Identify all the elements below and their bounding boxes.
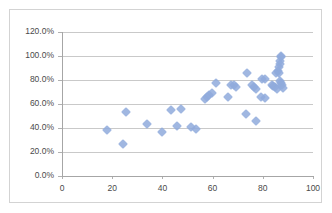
- scatter-point: [102, 125, 112, 135]
- scatter-point: [260, 93, 270, 103]
- scatter-point: [157, 127, 167, 137]
- scatter-point: [251, 116, 261, 126]
- scatter-point: [142, 119, 152, 129]
- scatter-point: [242, 68, 252, 78]
- scatter-point: [172, 121, 182, 131]
- scatter-point: [241, 109, 251, 119]
- chart-container: 0.0%20.0%40.0%60.0%80.0%100.0%120.0% 020…: [9, 9, 322, 203]
- scatter-point: [211, 78, 221, 88]
- data-points: [10, 10, 323, 204]
- scatter-point: [231, 82, 241, 92]
- scatter-point: [176, 104, 186, 114]
- scatter-point: [118, 139, 128, 149]
- scatter-point: [223, 92, 233, 102]
- scatter-plot: 0.0%20.0%40.0%60.0%80.0%100.0%120.0% 020…: [10, 10, 323, 204]
- scatter-point: [121, 107, 131, 117]
- scatter-point: [166, 105, 176, 115]
